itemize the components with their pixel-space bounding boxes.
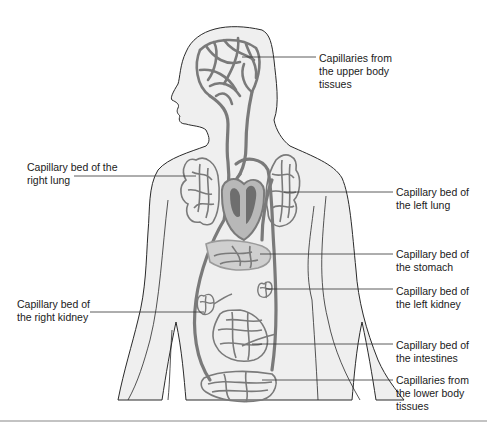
label-intestines: Capillary bed of the intestines — [396, 339, 469, 365]
capillary-diagram: Capillaries from the upper body tissues … — [0, 0, 487, 435]
label-right-lung: Capillary bed of the right lung — [27, 161, 117, 187]
label-stomach: Capillary bed of the stomach — [396, 248, 469, 274]
body-illustration — [0, 0, 487, 435]
label-left-lung: Capillary bed of the left lung — [396, 186, 469, 212]
label-upper-body-capillaries: Capillaries from the upper body tissues — [319, 52, 392, 91]
label-lower-body-capillaries: Capillaries from the lower body tissues — [396, 374, 469, 413]
label-right-kidney: Capillary bed of the right kidney — [17, 298, 90, 324]
label-left-kidney: Capillary bed of the left kidney — [396, 285, 469, 311]
